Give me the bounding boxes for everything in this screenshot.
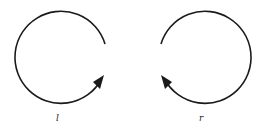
right-circular-arrow bbox=[161, 11, 251, 103]
rotation-diagram bbox=[0, 0, 264, 128]
left-circular-arrow bbox=[15, 11, 105, 103]
right-label: r bbox=[199, 113, 203, 123]
left-arrowhead-icon bbox=[93, 75, 104, 89]
left-label: l bbox=[56, 113, 59, 123]
